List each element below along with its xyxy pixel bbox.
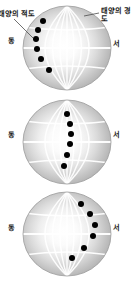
globe-1-west-label: 서 [113,40,120,48]
sunspot [90,233,96,239]
sunspot [92,222,98,228]
sunspot [38,56,44,62]
sunspot [40,18,46,24]
globes-diagram [0,0,131,283]
globe-3 [23,192,111,276]
sunspot [68,131,74,137]
sunspot [35,27,41,33]
globe-1 [14,6,111,90]
globe-3-west-label: 서 [113,224,120,232]
globe-2-east-label: 동 [8,131,15,139]
sunspot [67,121,73,127]
solar-longitude-label: 태양의 경도 [101,7,131,24]
sunspot [64,111,70,117]
sunspot [64,152,70,158]
globe-2 [23,100,111,184]
sunspot [33,36,39,42]
sunspot [69,255,75,261]
sunspot [87,211,93,217]
sunspot [46,67,52,73]
globe-1-east-label: 동 [8,37,15,45]
sunspot [78,201,84,207]
sunspot [61,163,67,169]
sunspot [67,141,73,147]
sunspot [34,46,40,52]
globe-3-east-label: 동 [8,224,15,232]
globe-2-west-label: 서 [113,131,120,139]
solar-equator-label: 태양의 적도 [0,10,35,18]
sunspot [81,245,87,251]
sunspot-migration-figure: 태양의 적도 태양의 경도 동 서 동 서 동 서 [0,0,131,283]
